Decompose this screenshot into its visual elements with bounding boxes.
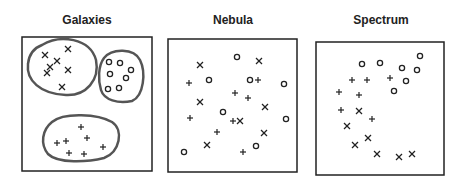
plus-marker-icon <box>336 89 342 95</box>
x-marker-icon <box>396 154 402 160</box>
x-marker-icon <box>356 108 362 114</box>
circle-marker-icon <box>116 85 121 90</box>
circle-marker-icon <box>391 88 396 93</box>
plus-marker-icon <box>255 77 261 83</box>
panel-frame <box>168 39 297 172</box>
plus-marker-icon <box>100 144 106 150</box>
plus-marker-icon <box>338 107 344 113</box>
x-marker-icon <box>197 99 203 105</box>
circle-marker-icon <box>181 149 186 154</box>
plus-marker-icon <box>187 115 193 121</box>
x-marker-icon <box>256 58 262 64</box>
circle-marker-icon <box>377 60 382 65</box>
plus-marker-icon <box>245 95 251 101</box>
circle-marker-icon <box>123 75 128 80</box>
x-marker-icon <box>365 135 371 141</box>
x-marker-icon <box>352 142 358 148</box>
x-marker-icon <box>42 52 48 58</box>
diagram-canvas <box>0 0 465 186</box>
plus-marker-icon <box>349 77 355 83</box>
circle-marker-icon <box>107 71 112 76</box>
circle-marker-icon <box>234 54 239 59</box>
plus-marker-icon <box>232 90 238 96</box>
circle-marker-icon <box>403 78 408 83</box>
circle-marker-icon <box>247 77 252 82</box>
x-marker-icon <box>262 104 268 110</box>
circle-marker-icon <box>281 81 286 86</box>
plus-marker-icon <box>240 149 246 155</box>
x-marker-icon <box>261 130 267 136</box>
plus-marker-icon <box>230 118 236 124</box>
plus-marker-icon <box>364 77 370 83</box>
x-marker-icon <box>47 64 53 70</box>
x-marker-icon <box>409 151 415 157</box>
x-marker-icon <box>59 84 65 90</box>
circle-marker-icon <box>414 67 419 72</box>
plus-marker-icon <box>356 92 362 98</box>
plus-marker-icon <box>369 116 375 122</box>
circle-marker-icon <box>253 143 258 148</box>
plus-marker-icon <box>66 150 72 156</box>
plus-marker-icon <box>78 124 84 130</box>
circle-marker-icon <box>117 60 122 65</box>
x-marker-icon <box>197 62 203 68</box>
panel-spectrum <box>316 42 444 175</box>
panel-frame <box>22 37 152 171</box>
circle-marker-icon <box>106 59 111 64</box>
x-marker-icon <box>237 118 243 124</box>
circle-marker-icon <box>399 65 404 70</box>
plus-marker-icon <box>84 135 90 141</box>
plus-marker-icon <box>54 140 60 146</box>
panel-nebula <box>168 39 297 172</box>
plus-marker-icon <box>63 138 69 144</box>
cluster-outline <box>99 51 143 102</box>
circle-marker-icon <box>105 86 110 91</box>
plus-marker-icon <box>387 75 393 81</box>
circle-marker-icon <box>128 67 133 72</box>
x-marker-icon <box>204 142 210 148</box>
circle-marker-icon <box>359 61 364 66</box>
circle-marker-icon <box>417 53 422 58</box>
x-marker-icon <box>344 123 350 129</box>
plus-marker-icon <box>81 151 87 157</box>
x-marker-icon <box>54 58 60 64</box>
panel-frame <box>316 42 444 175</box>
x-marker-icon <box>65 67 71 73</box>
circle-marker-icon <box>220 109 225 114</box>
circle-marker-icon <box>206 77 211 82</box>
plus-marker-icon <box>214 129 220 135</box>
x-marker-icon <box>374 151 380 157</box>
panel-galaxies <box>22 37 152 171</box>
x-marker-icon <box>44 70 50 76</box>
circle-marker-icon <box>283 116 288 121</box>
plus-marker-icon <box>186 80 192 86</box>
x-marker-icon <box>65 46 71 52</box>
